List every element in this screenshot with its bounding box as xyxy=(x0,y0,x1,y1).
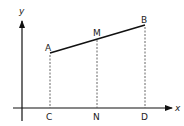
point-d-label: D xyxy=(141,112,148,122)
diagram-canvas: y x A M B C N D xyxy=(0,0,184,126)
point-m-label: M xyxy=(93,28,101,38)
x-axis-label: x xyxy=(174,103,181,113)
point-c-label: C xyxy=(46,112,52,122)
point-a-label: A xyxy=(45,43,52,53)
y-axis-label: y xyxy=(18,6,25,16)
point-n-label: N xyxy=(93,112,100,122)
point-b-label: B xyxy=(141,15,147,25)
